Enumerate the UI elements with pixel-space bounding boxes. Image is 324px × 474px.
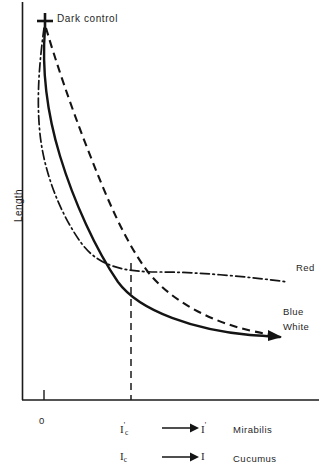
curve-label-blue: Blue [283,306,304,317]
dark-control-label: Dark control [57,13,118,24]
curve-convergence-tip [268,330,282,341]
species-label-mirabilis: Mirabilis [233,424,272,435]
curve-label-red: Red [296,262,315,273]
curve-white [44,28,280,337]
ic-sub: c [124,455,127,464]
arrow-mirabilis-icon [162,424,199,433]
chart-svg [0,0,324,474]
iprime-prime: ' [205,421,206,430]
x-marker-icp: I'c [120,421,128,437]
curve-label-white: White [283,321,309,332]
axis-group [22,2,319,400]
x-end-label-iprime: I' [201,421,206,435]
curve-blue [46,28,279,336]
arrow-cucumus-icon [162,453,199,462]
x-tick-label-zero: 0 [39,415,44,426]
x-marker-ic: Ic [120,450,127,464]
x-end-label-i: I [201,450,205,462]
figure-canvas: Dark control Length Red Blue White 0 I'c… [0,0,324,474]
y-axis-label: Length [13,176,24,236]
curve-red [38,28,288,282]
species-label-cucumus: Cucumus [233,453,277,464]
icp-sub: c [125,428,128,437]
